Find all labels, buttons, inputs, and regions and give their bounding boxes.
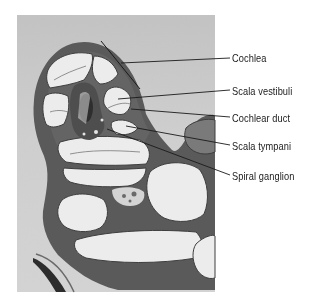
label-scala-tympani: Scala tympani xyxy=(232,140,291,152)
label-cochlear-duct: Cochlear duct xyxy=(232,112,290,124)
label-scala-vestibuli: Scala vestibuli xyxy=(232,85,292,97)
label-cochlea: Cochlea xyxy=(232,52,267,64)
cochlea-figure: Cochlea Scala vestibuli Cochlear duct Sc… xyxy=(0,0,311,302)
label-spiral-ganglion: Spiral ganglion xyxy=(232,170,294,182)
